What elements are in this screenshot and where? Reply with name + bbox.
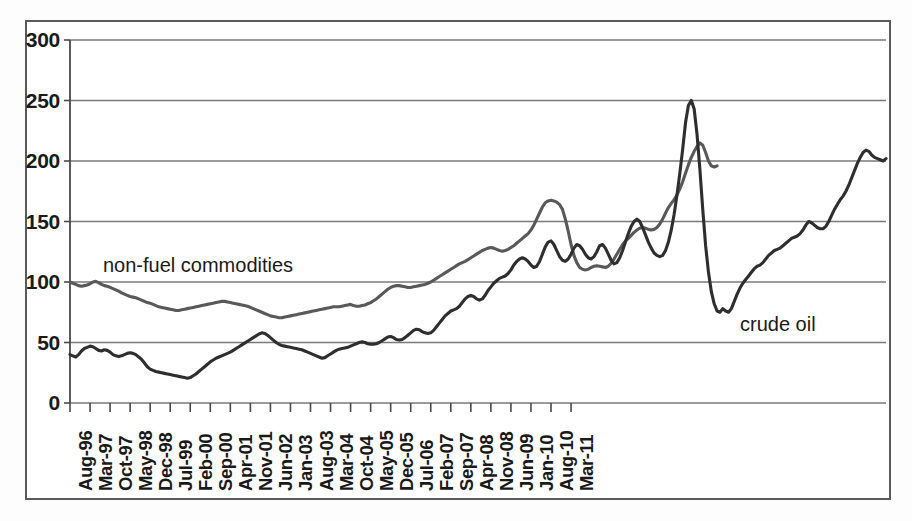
series-line-crude-oil [70, 101, 886, 379]
x-tick-label-Jul-06: Jul-06 [418, 440, 437, 491]
x-tick-label-Jan-03: Jan-03 [297, 435, 316, 491]
x-tick-label-Jul-99: Jul-99 [177, 440, 196, 491]
data-series [70, 101, 886, 379]
y-tick-label-0: 0 [8, 392, 60, 413]
x-tick-label-Jun-02: Jun-02 [277, 434, 296, 491]
x-tick-label-Oct-97: Oct-97 [117, 436, 136, 491]
x-tick-label-Dec-05: Dec-05 [398, 433, 417, 491]
series-label-non-fuel-commodities: non-fuel commodities [103, 255, 293, 275]
x-tick-label-Apr-01: Apr-01 [237, 435, 256, 491]
y-tick-label-150: 150 [8, 211, 60, 232]
x-tick-label-Nov-01: Nov-01 [257, 432, 276, 491]
x-axis-tick-marks [70, 403, 571, 412]
series-label-crude-oil: crude oil [740, 314, 816, 334]
gridlines [70, 40, 886, 403]
x-tick-label-Apr-08: Apr-08 [478, 435, 497, 491]
x-tick-label-Mar-11: Mar-11 [578, 435, 597, 491]
y-tick-label-200: 200 [8, 150, 60, 171]
x-tick-label-Feb-00: Feb-00 [197, 434, 216, 491]
x-tick-label-Aug-96: Aug-96 [77, 431, 96, 491]
x-tick-label-Dec-98: Dec-98 [157, 433, 176, 491]
x-tick-label-Aug-03: Aug-03 [318, 431, 337, 491]
y-tick-label-100: 100 [8, 271, 60, 292]
y-tick-label-300: 300 [8, 29, 60, 50]
x-tick-label-Sep-07: Sep-07 [458, 433, 477, 491]
x-tick-label-Oct-04: Oct-04 [358, 436, 377, 491]
x-tick-label-Mar-97: Mar-97 [97, 434, 116, 491]
x-tick-label-Sep-00: Sep-00 [217, 433, 236, 491]
x-tick-label-Jun-09: Jun-09 [518, 434, 537, 491]
y-tick-label-50: 50 [8, 332, 60, 353]
series-line-non-fuel-commodities [70, 143, 717, 318]
x-tick-label-May-98: May-98 [137, 431, 156, 491]
chart-figure: 300250200150100500 Aug-96Mar-97Oct-97May… [0, 0, 912, 521]
x-tick-label-Feb-07: Feb-07 [438, 434, 457, 491]
x-tick-label-May-05: May-05 [378, 431, 397, 491]
x-tick-label-Jan-10: Jan-10 [538, 435, 557, 491]
x-tick-label-Nov-08: Nov-08 [498, 432, 517, 491]
y-tick-label-250: 250 [8, 90, 60, 111]
x-tick-label-Mar-04: Mar-04 [338, 434, 357, 491]
x-tick-label-Aug-10: Aug-10 [558, 431, 577, 491]
